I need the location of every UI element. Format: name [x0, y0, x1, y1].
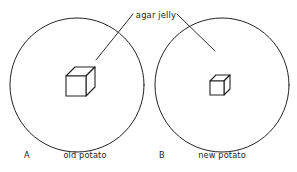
cube-a-front-face: [66, 76, 86, 96]
panel-a: A old potato: [10, 14, 144, 160]
panel-letter-b: B: [159, 150, 165, 160]
panel-letter-a: A: [24, 150, 30, 160]
cube-b-front-face: [210, 81, 224, 95]
agar-jelly-callout-label: agar jelly: [136, 10, 176, 20]
agar-cube-a: [66, 67, 95, 96]
panel-caption-b: new potato: [198, 150, 246, 160]
leader-line-a: [96, 14, 133, 60]
panel-caption-a: old potato: [63, 150, 106, 160]
diagram-figure: A old potato B new potato agar jelly: [0, 0, 297, 172]
diagram-canvas: A old potato B new potato agar jelly: [0, 0, 297, 172]
agar-cube-b: [210, 75, 230, 95]
panel-b: B new potato: [155, 14, 289, 160]
